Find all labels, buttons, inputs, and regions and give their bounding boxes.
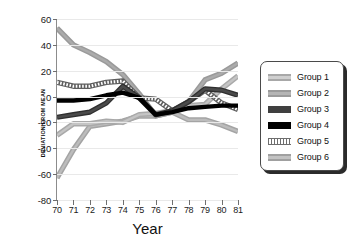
chart-screenshot: DEVIATION FROM MEAN 6040200-20-40-60-80 …	[0, 0, 352, 246]
x-tick-label: 76	[151, 205, 160, 215]
legend-swatch-icon	[268, 138, 291, 145]
gridline	[57, 71, 238, 72]
line-chart-figure: DEVIATION FROM MEAN 6040200-20-40-60-80 …	[0, 0, 252, 246]
x-tick-label: 70	[52, 205, 61, 215]
y-tick-mark	[53, 45, 57, 46]
legend-item-4[interactable]: Group 4	[261, 117, 343, 133]
legend-swatch-icon	[268, 90, 291, 97]
legend-item-label: Group 2	[297, 88, 329, 98]
legend-item-1[interactable]: Group 1	[261, 69, 343, 85]
x-tick-label: 77	[167, 205, 176, 215]
legend-swatch-icon	[268, 106, 291, 113]
y-tick-label: 60	[41, 14, 51, 25]
gridline	[57, 19, 238, 20]
y-tick-label: -40	[38, 143, 51, 154]
gridline	[57, 45, 238, 46]
x-tick-label: 75	[135, 205, 144, 215]
legend-item-label: Group 5	[297, 136, 329, 146]
x-tick-label: 81	[233, 205, 242, 215]
legend-item-label: Group 1	[297, 72, 329, 82]
legend-swatch-icon	[268, 74, 291, 81]
legend-item-label: Group 3	[297, 104, 329, 114]
y-tick-label: -60	[38, 169, 51, 180]
gridline	[57, 97, 238, 98]
x-tick-label: 78	[184, 205, 193, 215]
gridline	[57, 200, 238, 201]
y-tick-mark	[53, 148, 57, 149]
x-tick-label: 79	[200, 205, 209, 215]
x-tick-label: 74	[118, 205, 127, 215]
x-axis-title: Year	[57, 220, 238, 237]
y-tick-mark	[53, 19, 57, 20]
y-tick-label: -20	[38, 117, 51, 128]
plot-area: 6040200-20-40-60-80	[57, 19, 238, 200]
y-tick-mark	[53, 122, 57, 123]
y-tick-label: -80	[38, 195, 51, 206]
chart-legend: Group 1Group 2Group 3Group 4Group 5Group…	[260, 61, 344, 171]
y-tick-mark	[53, 71, 57, 72]
legend-item-6[interactable]: Group 6	[261, 149, 343, 165]
gridline	[57, 122, 238, 123]
series-lines	[57, 19, 238, 200]
legend-swatch-icon	[268, 154, 291, 161]
gridline	[57, 174, 238, 175]
x-tick-label: 71	[69, 205, 78, 215]
y-tick-label: 40	[41, 39, 51, 50]
legend-item-label: Group 6	[297, 152, 329, 162]
y-tick-mark	[53, 97, 57, 98]
legend-item-5[interactable]: Group 5	[261, 133, 343, 149]
legend-item-2[interactable]: Group 2	[261, 85, 343, 101]
x-tick-label: 73	[102, 205, 111, 215]
x-tick-label: 72	[85, 205, 94, 215]
y-tick-label: 0	[46, 91, 51, 102]
legend-item-3[interactable]: Group 3	[261, 101, 343, 117]
legend-item-label: Group 4	[297, 120, 329, 130]
y-tick-label: 20	[41, 65, 51, 76]
y-tick-mark	[53, 174, 57, 175]
legend-swatch-icon	[268, 122, 291, 129]
gridline	[57, 148, 238, 149]
x-tick-label: 80	[217, 205, 226, 215]
